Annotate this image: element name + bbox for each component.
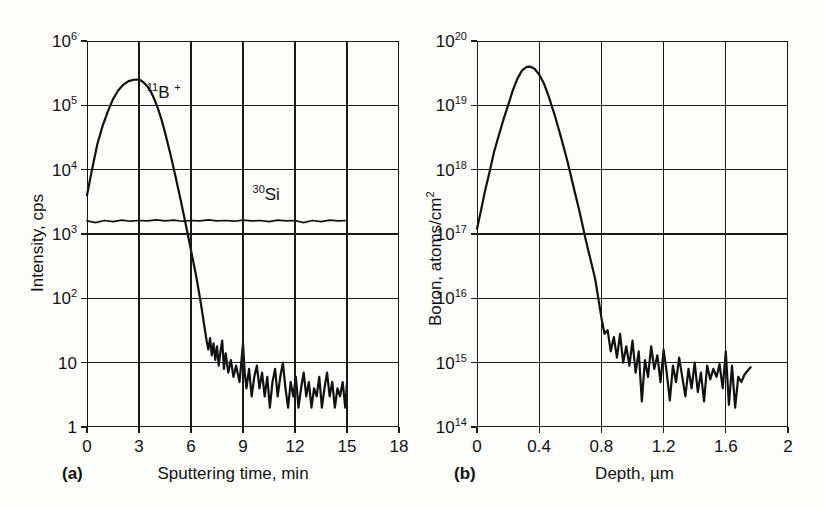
x-axis-tick (242, 427, 243, 433)
x-axis-tick (787, 427, 788, 433)
x-axis-tick-label: 0.4 (527, 438, 551, 455)
gridline-horizontal (87, 105, 399, 106)
x-axis-tick-label: 0.8 (590, 438, 614, 455)
y-axis-tick (81, 105, 87, 106)
y-axis-tick (81, 426, 87, 427)
gridline-horizontal (477, 362, 788, 363)
panel-b-depth-chart: Depth, µm Boron, atoms/cm2 (b) 00.40.81.… (412, 0, 824, 508)
y-axis-tick (471, 298, 477, 299)
gridline-horizontal (477, 169, 788, 170)
silicon-30-trace-label: 30Si (253, 185, 280, 205)
y-axis-tick (471, 40, 477, 41)
x-axis-tick-label: 2 (783, 438, 792, 455)
x-axis-tick-label: 15 (338, 438, 357, 455)
y-axis-tick (81, 169, 87, 170)
x-axis-tick-label: 0 (82, 438, 91, 455)
x-axis-tick-label: 0 (472, 438, 481, 455)
x-axis-tick (138, 427, 139, 433)
y-axis-tick (81, 298, 87, 299)
boron-11-trace-label: 11B + (147, 83, 181, 103)
y-axis-tick (81, 362, 87, 363)
y-axis-tick-label: 10 (58, 354, 77, 371)
x-axis-tick (725, 427, 726, 433)
x-axis-tick (601, 427, 602, 433)
data-trace (477, 67, 751, 408)
data-trace (87, 220, 347, 223)
y-axis-tick (471, 169, 477, 170)
y-axis-tick-label: 1019 (436, 97, 467, 114)
sims-depth-profile-figure: 11B + 30Si Sputtering time, min Intensit… (0, 0, 824, 508)
panel-b-x-axis-title: Depth, µm (595, 464, 674, 484)
panel-a-x-axis-title: Sputtering time, min (157, 464, 308, 484)
gridline-horizontal (477, 105, 788, 106)
y-axis-tick (471, 105, 477, 106)
x-axis-tick (190, 427, 191, 433)
data-trace (87, 80, 347, 408)
y-axis-tick (471, 426, 477, 427)
y-axis-tick (471, 233, 477, 234)
x-axis-tick-label: 12 (286, 438, 305, 455)
x-axis-tick (539, 427, 540, 433)
y-axis-tick-label: 105 (52, 97, 77, 114)
y-axis-tick (81, 233, 87, 234)
x-axis-tick-label: 3 (134, 438, 143, 455)
y-axis-tick (471, 362, 477, 363)
x-axis-tick (346, 427, 347, 433)
x-axis-tick-label: 1.6 (714, 438, 738, 455)
y-axis-tick-label: 1017 (436, 226, 467, 243)
gridline-horizontal (87, 298, 399, 299)
x-axis-tick (476, 427, 477, 433)
y-axis-tick-label: 104 (52, 161, 77, 178)
x-axis-tick-label: 1.2 (652, 438, 676, 455)
y-axis-tick-label: 1015 (436, 354, 467, 371)
x-axis-tick-label: 9 (238, 438, 247, 455)
y-axis-tick (81, 40, 87, 41)
gridline-horizontal (477, 233, 788, 234)
panel-a-tag: (a) (62, 464, 83, 484)
x-axis-tick (398, 427, 399, 433)
x-axis-tick-label: 18 (390, 438, 409, 455)
x-axis-tick (294, 427, 295, 433)
gridline-horizontal (87, 233, 399, 234)
y-axis-tick-label: 103 (52, 226, 77, 243)
panel-a-y-axis-title: Intensity, cps (28, 194, 48, 292)
gridline-horizontal (87, 362, 399, 363)
x-axis-tick-label: 6 (186, 438, 195, 455)
y-axis-tick-label: 1018 (436, 161, 467, 178)
gridline-horizontal (477, 298, 788, 299)
x-axis-tick (663, 427, 664, 433)
y-axis-tick-label: 1 (68, 419, 77, 436)
panel-b-tag: (b) (454, 464, 476, 484)
y-axis-tick-label: 1020 (436, 33, 467, 50)
panel-a-sputtering-time-chart: 11B + 30Si Sputtering time, min Intensit… (0, 0, 412, 508)
x-axis-tick (86, 427, 87, 433)
y-axis-tick-label: 106 (52, 33, 77, 50)
y-axis-tick-label: 102 (52, 290, 77, 307)
y-axis-tick-label: 1014 (436, 419, 467, 436)
y-axis-tick-label: 1016 (436, 290, 467, 307)
gridline-horizontal (87, 169, 399, 170)
